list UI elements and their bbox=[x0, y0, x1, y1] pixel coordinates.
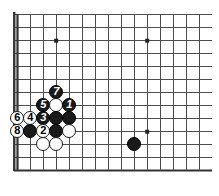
stone-move-number: 6 bbox=[14, 112, 20, 123]
go-board-grid bbox=[0, 0, 219, 196]
stone-move-number: 8 bbox=[14, 125, 20, 136]
stone-move-number: 7 bbox=[53, 86, 59, 97]
stone-move-number: 3 bbox=[40, 112, 46, 123]
star-point bbox=[54, 39, 58, 43]
star-point bbox=[145, 130, 149, 134]
star-point bbox=[145, 39, 149, 43]
stone-move-number: 5 bbox=[40, 99, 46, 110]
stone-move-number: 2 bbox=[40, 125, 46, 136]
stone-move-number: 4 bbox=[27, 112, 33, 123]
stone-move-number: 1 bbox=[66, 99, 72, 110]
go-board-diagram: 75164382 bbox=[0, 0, 219, 196]
